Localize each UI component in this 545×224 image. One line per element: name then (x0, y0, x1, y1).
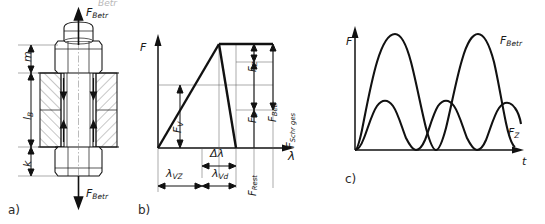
axes-c (352, 26, 525, 154)
label-force-betr-top: FBetr (86, 7, 108, 19)
label-force-FV: FV (172, 122, 184, 133)
panel-label-a: a) (8, 203, 20, 217)
dimension-label-k: k (22, 161, 33, 167)
label-force-betr-bottom: FBetr (86, 188, 108, 200)
curve-f-betr (355, 34, 515, 150)
curve-label-f-betr: FBetr (500, 35, 522, 47)
panel-label-b: b) (138, 203, 150, 217)
label-force-FBetr-b: FBetr (268, 102, 279, 122)
label-force-FZ: FZ (248, 62, 259, 72)
axis-label-F-b: F (140, 42, 146, 53)
label-force-FB: FB (248, 113, 259, 123)
figure-bolted-joint: Betr (0, 0, 545, 224)
panel-label-c: c) (345, 172, 356, 186)
label-force-FSchrges: FSchr ges (286, 113, 297, 148)
label-lambda-VZ: λVZ (166, 168, 183, 180)
label-force-FRest: FRest (248, 175, 259, 196)
panel-a-drawing (0, 0, 140, 224)
axis-label-t-c: t (522, 156, 526, 167)
axis-label-F-c: F (346, 36, 352, 47)
dimension-label-lb: lB (22, 112, 34, 120)
axis-label-lambda-b: λ (288, 150, 295, 162)
curve-f-z (355, 101, 521, 150)
dimension-label-m: m (22, 51, 33, 62)
panel-c-chart (315, 0, 545, 224)
label-delta-lambda: Δλ (210, 148, 224, 159)
label-lambda-Vd: λVd (212, 168, 228, 180)
curve-label-f-z: FZ (508, 127, 519, 139)
